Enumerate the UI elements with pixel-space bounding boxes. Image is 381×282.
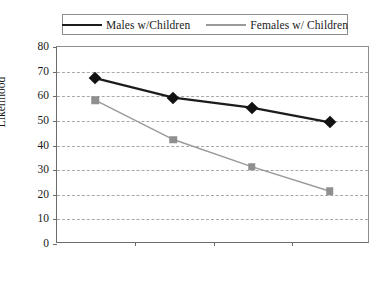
legend-label-males: Males w/Children <box>106 19 190 31</box>
legend-line-females <box>206 24 246 26</box>
data-point-marker <box>170 136 178 144</box>
y-tick-label: 50 <box>23 115 49 127</box>
series-lines <box>56 46 369 243</box>
y-tick-label: 70 <box>23 66 49 78</box>
y-tick-label: 10 <box>23 213 49 225</box>
line-chart: Males w/Children Females w/ Children Lik… <box>0 0 381 282</box>
series-layer <box>56 46 369 243</box>
legend-line-males <box>62 24 102 26</box>
legend-label-females: Females w/ Children <box>250 19 348 31</box>
legend-swatch-males <box>62 19 102 31</box>
data-point-marker <box>248 163 256 171</box>
data-point-marker <box>91 96 99 104</box>
legend-item-males: Males w/Children <box>62 19 190 31</box>
y-tick-label: 20 <box>23 189 49 201</box>
series-line-1 <box>95 78 330 122</box>
y-tick-label: 0 <box>23 238 49 250</box>
legend-swatch-females <box>206 19 246 31</box>
series-line-2 <box>95 100 330 191</box>
y-axis-label: Likelihood <box>0 77 7 127</box>
y-tick-label: 80 <box>23 41 49 53</box>
chart-legend: Males w/Children Females w/ Children <box>62 14 348 35</box>
y-tick-mark <box>53 244 57 245</box>
y-tick-label: 60 <box>23 90 49 102</box>
y-tick-label: 30 <box>23 164 49 176</box>
y-tick-label: 40 <box>23 140 49 152</box>
legend-item-females: Females w/ Children <box>206 19 348 31</box>
data-point-marker <box>326 188 334 196</box>
